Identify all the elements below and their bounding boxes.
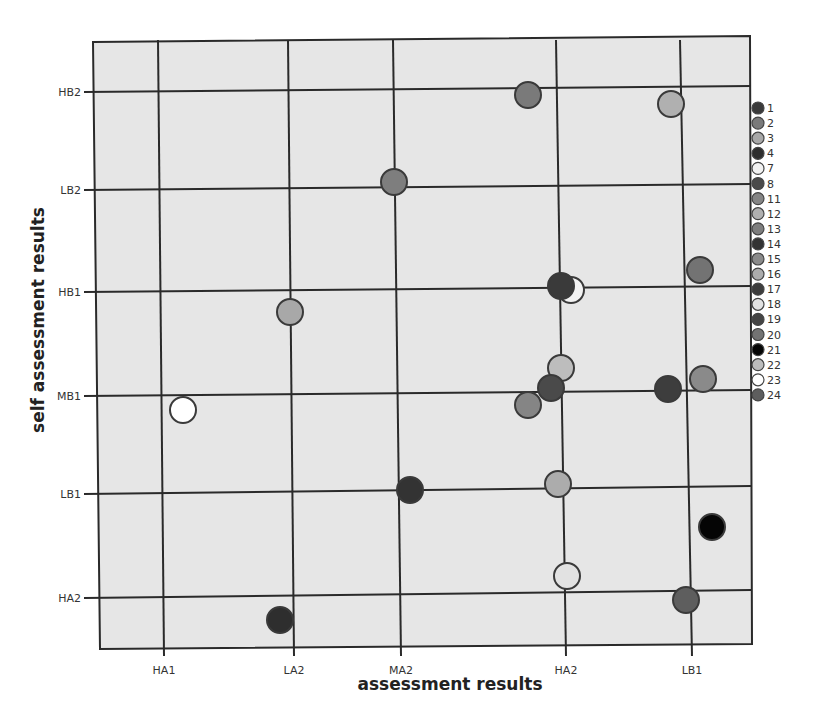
x-tick-label: LB1 <box>682 664 703 677</box>
data-point <box>545 471 571 497</box>
data-point <box>690 366 716 392</box>
legend-label: 19 <box>767 313 781 326</box>
legend-swatch-icon <box>752 389 764 401</box>
legend-label: 17 <box>767 283 781 296</box>
y-tick-label: HA2 <box>58 592 81 605</box>
legend-item: 12 <box>752 208 781 221</box>
legend-swatch-icon <box>752 313 764 325</box>
y-tick-label: HB2 <box>58 86 81 99</box>
legend-item: 2 <box>752 117 774 130</box>
legend-swatch-icon <box>752 253 764 265</box>
data-point <box>687 257 713 283</box>
data-point <box>515 82 541 108</box>
x-axis-title: assessment results <box>357 674 542 694</box>
legend-swatch-icon <box>752 359 764 371</box>
legend-item: 21 <box>752 344 781 357</box>
legend-swatch-icon <box>752 102 764 114</box>
data-point <box>655 376 681 402</box>
legend-label: 22 <box>767 359 781 372</box>
scatter-chart: HA2LB1MB1HB1LB2HB2 HA1LA2MA2HA2LB1 asses… <box>0 0 815 719</box>
y-tick-label: LB1 <box>60 488 81 501</box>
legend-swatch-icon <box>752 178 764 190</box>
legend-swatch-icon <box>752 208 764 220</box>
legend-label: 16 <box>767 268 781 281</box>
legend: 1234781112131415161718192021222324 <box>752 102 781 402</box>
legend-item: 17 <box>752 283 781 296</box>
data-point <box>658 91 684 117</box>
data-point <box>699 514 725 540</box>
legend-label: 2 <box>767 117 774 130</box>
legend-item: 3 <box>752 132 774 145</box>
legend-item: 8 <box>752 178 774 191</box>
legend-swatch-icon <box>752 344 764 356</box>
legend-label: 12 <box>767 208 781 221</box>
legend-swatch-icon <box>752 117 764 129</box>
legend-item: 24 <box>752 389 781 402</box>
legend-item: 19 <box>752 313 781 326</box>
y-axis-title: self assessment results <box>28 207 48 433</box>
legend-label: 14 <box>767 238 781 251</box>
legend-label: 4 <box>767 147 774 160</box>
legend-swatch-icon <box>752 193 764 205</box>
legend-swatch-icon <box>752 238 764 250</box>
x-tick-label: HA2 <box>555 664 578 677</box>
x-tick-label: HA1 <box>153 664 176 677</box>
legend-label: 11 <box>767 193 781 206</box>
legend-swatch-icon <box>752 268 764 280</box>
data-point <box>381 169 407 195</box>
data-point <box>267 607 293 633</box>
legend-item: 7 <box>752 162 774 175</box>
legend-item: 16 <box>752 268 781 281</box>
data-point <box>515 392 541 418</box>
legend-swatch-icon <box>752 329 764 341</box>
data-point <box>170 397 196 423</box>
legend-label: 3 <box>767 132 774 145</box>
x-tick-label: LA2 <box>284 664 305 677</box>
legend-swatch-icon <box>752 132 764 144</box>
data-point <box>538 375 564 401</box>
legend-swatch-icon <box>752 374 764 386</box>
legend-item: 23 <box>752 374 781 387</box>
legend-swatch-icon <box>752 223 764 235</box>
y-axis: HA2LB1MB1HB1LB2HB2 <box>57 86 81 605</box>
data-point <box>548 273 574 299</box>
y-tick-label: MB1 <box>57 390 81 403</box>
legend-item: 14 <box>752 238 781 251</box>
legend-label: 20 <box>767 329 781 342</box>
legend-label: 15 <box>767 253 781 266</box>
legend-label: 24 <box>767 389 781 402</box>
y-tick-label: HB1 <box>58 286 81 299</box>
legend-item: 20 <box>752 329 781 342</box>
legend-label: 21 <box>767 344 781 357</box>
legend-swatch-icon <box>752 298 764 310</box>
data-point <box>397 477 423 503</box>
plot-background <box>93 36 752 649</box>
legend-item: 15 <box>752 253 781 266</box>
legend-item: 22 <box>752 359 781 372</box>
legend-swatch-icon <box>752 162 764 174</box>
legend-label: 8 <box>767 178 774 191</box>
legend-item: 11 <box>752 193 781 206</box>
data-point <box>554 563 580 589</box>
plot-area <box>84 36 752 656</box>
legend-label: 13 <box>767 223 781 236</box>
legend-label: 23 <box>767 374 781 387</box>
legend-item: 13 <box>752 223 781 236</box>
legend-label: 7 <box>767 162 774 175</box>
legend-item: 18 <box>752 298 781 311</box>
legend-swatch-icon <box>752 147 764 159</box>
legend-item: 4 <box>752 147 774 160</box>
legend-item: 1 <box>752 102 774 115</box>
data-point <box>673 587 699 613</box>
legend-label: 1 <box>767 102 774 115</box>
y-tick-label: LB2 <box>60 184 81 197</box>
legend-swatch-icon <box>752 283 764 295</box>
legend-label: 18 <box>767 298 781 311</box>
data-point <box>277 299 303 325</box>
